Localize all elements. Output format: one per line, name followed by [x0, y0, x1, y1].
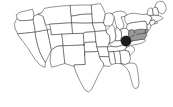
location-marker — [121, 36, 131, 46]
state-co — [62, 33, 84, 46]
us-map-svg — [0, 0, 173, 107]
us-map-figure: Outline map of the contiguous United Sta… — [0, 0, 173, 107]
state-sd — [71, 14, 92, 23]
state-wy — [50, 23, 73, 35]
state-az — [50, 46, 65, 67]
state-ga — [120, 50, 130, 65]
state-nm — [63, 45, 85, 67]
state-or — [14, 19, 35, 34]
marker-layer — [121, 36, 131, 46]
